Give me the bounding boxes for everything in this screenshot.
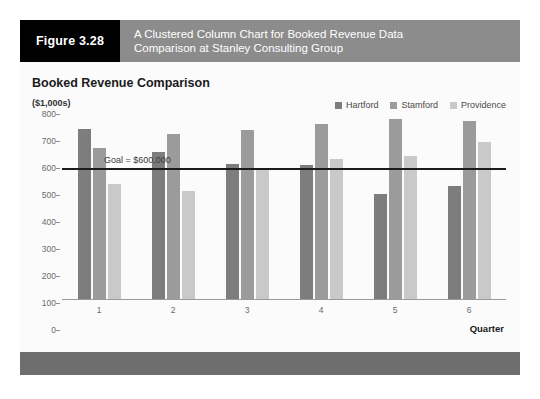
bar-hartford[interactable]	[300, 165, 313, 299]
y-axis-tick-mark	[56, 249, 60, 250]
bar-cluster	[432, 114, 506, 299]
legend-item[interactable]: Stamford	[390, 100, 438, 110]
bar-providence[interactable]	[330, 159, 343, 299]
y-axis-tick: 300	[42, 244, 56, 254]
y-axis-tick: 500	[42, 190, 56, 200]
bar-cluster	[210, 114, 284, 299]
plot-area: Goal = $600,000	[62, 114, 506, 300]
chart-body: Booked Revenue Comparison ($1,000s) Hart…	[20, 62, 520, 352]
legend-item[interactable]: Providence	[450, 100, 506, 110]
legend-label: Stamford	[401, 100, 438, 110]
chart-legend: HartfordStamfordProvidence	[335, 100, 506, 110]
y-axis-tick: 800	[42, 109, 56, 119]
bar-hartford[interactable]	[448, 186, 461, 299]
x-axis-tick-label: 6	[432, 302, 506, 318]
bar-clusters	[62, 114, 506, 299]
y-axis-tick: 700	[42, 136, 56, 146]
y-axis: 8007006005004003002001000	[32, 114, 62, 300]
bar-cluster	[284, 114, 358, 299]
figure-card: Figure 3.28 A Clustered Column Chart for…	[20, 20, 520, 375]
x-axis-tick-label: 1	[62, 302, 136, 318]
y-axis-tick: 0	[51, 325, 56, 335]
legend-swatch-icon	[335, 102, 342, 109]
y-axis-tick-mark	[56, 195, 60, 196]
goal-reference-line	[62, 168, 506, 170]
x-axis-tick-label: 4	[284, 302, 358, 318]
bar-hartford[interactable]	[226, 164, 239, 299]
y-axis-tick-mark	[56, 141, 60, 142]
plot-wrapper: 8007006005004003002001000 Goal = $600,00…	[32, 114, 506, 322]
figure-caption-line-1: A Clustered Column Chart for Booked Reve…	[134, 27, 510, 41]
x-axis-tick-label: 3	[210, 302, 284, 318]
legend-label: Hartford	[346, 100, 379, 110]
bar-providence[interactable]	[256, 168, 269, 299]
y-axis-tick-mark	[56, 222, 60, 223]
bar-hartford[interactable]	[78, 129, 91, 299]
x-axis-labels: 123456	[62, 302, 506, 318]
y-axis-tick: 600	[42, 163, 56, 173]
bar-hartford[interactable]	[374, 194, 387, 299]
bar-stamford[interactable]	[315, 124, 328, 300]
y-axis-tick-mark	[56, 114, 60, 115]
y-axis-tick: 200	[42, 271, 56, 281]
figure-caption-line-2: Comparison at Stanley Consulting Group	[134, 41, 510, 55]
y-axis-tick-mark	[56, 303, 60, 304]
bar-cluster	[358, 114, 432, 299]
y-axis-tick-mark	[56, 168, 60, 169]
legend-swatch-icon	[450, 102, 457, 109]
figure-number-block: Figure 3.28	[20, 20, 120, 62]
y-axis-unit-label: ($1,000s)	[32, 98, 71, 108]
legend-swatch-icon	[390, 102, 397, 109]
x-axis-tick-label: 2	[136, 302, 210, 318]
chart-title: Booked Revenue Comparison	[32, 76, 210, 90]
bar-cluster	[136, 114, 210, 299]
bar-stamford[interactable]	[241, 130, 254, 299]
y-axis-tick-mark	[56, 330, 60, 331]
bar-cluster	[62, 114, 136, 299]
bar-providence[interactable]	[108, 184, 121, 299]
bar-stamford[interactable]	[389, 119, 402, 299]
x-axis-tick-label: 5	[358, 302, 432, 318]
bar-stamford[interactable]	[93, 148, 106, 299]
y-axis-tick: 100	[42, 298, 56, 308]
bar-providence[interactable]	[182, 191, 195, 299]
bar-stamford[interactable]	[463, 121, 476, 299]
y-axis-tick: 400	[42, 217, 56, 227]
legend-item[interactable]: Hartford	[335, 100, 379, 110]
bar-providence[interactable]	[404, 156, 417, 299]
y-axis-tick-mark	[56, 276, 60, 277]
x-axis-title: Quarter	[470, 323, 504, 334]
goal-line-label: Goal = $600,000	[104, 155, 171, 165]
legend-label: Providence	[461, 100, 506, 110]
bar-hartford[interactable]	[152, 152, 165, 299]
figure-caption: A Clustered Column Chart for Booked Reve…	[120, 20, 520, 62]
bar-providence[interactable]	[478, 142, 491, 299]
figure-footer-band	[20, 352, 520, 375]
figure-header: Figure 3.28 A Clustered Column Chart for…	[20, 20, 520, 62]
